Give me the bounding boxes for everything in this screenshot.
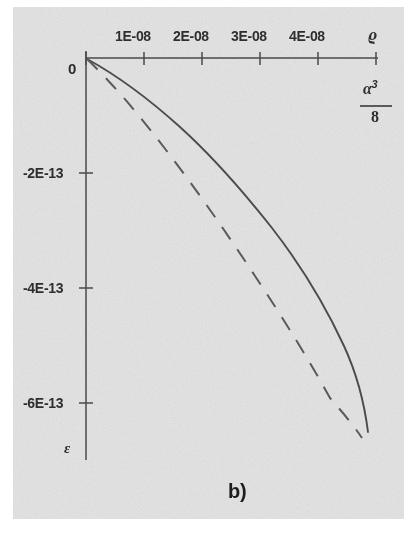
x-tick-label-1: 1E-08	[115, 28, 151, 44]
y-tick-label-3: -6E-13	[23, 395, 63, 411]
y-axis-label: ε	[64, 440, 70, 457]
dashed-curve	[87, 59, 362, 438]
figure-panel-b: 1E-08 2E-08 3E-08 4E-08 0 -2E-13 -4E-13 …	[0, 0, 411, 534]
alpha-exponent: 3	[372, 78, 378, 90]
x-axis-label-divisor: 8	[371, 108, 379, 126]
panel-label: b)	[228, 480, 246, 503]
plot-canvas	[0, 0, 411, 534]
alpha-symbol: α	[363, 80, 372, 97]
solid-curve	[87, 59, 368, 432]
x-tick-label-3: 3E-08	[231, 28, 267, 44]
y-tick-label-1: -2E-13	[23, 165, 63, 181]
x-axis-label-denominator-symbol: α3	[363, 78, 377, 98]
y-tick-label-2: -4E-13	[23, 280, 63, 296]
x-tick-label-2: 2E-08	[173, 28, 209, 44]
x-tick-label-4: 4E-08	[289, 28, 325, 44]
origin-label: 0	[68, 60, 76, 77]
x-axis-label-numerator: ϱ	[368, 25, 377, 45]
